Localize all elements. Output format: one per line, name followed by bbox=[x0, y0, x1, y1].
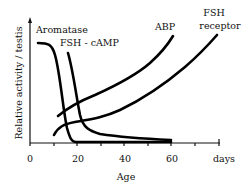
x-unit-label: days bbox=[213, 153, 235, 164]
fsh-receptor-label-line1: FSH bbox=[203, 7, 224, 18]
x-tick-0: 0 bbox=[27, 153, 33, 164]
chart: 0 20 40 60 days Age Relative activity / … bbox=[0, 0, 251, 189]
fsh-receptor-curve bbox=[54, 35, 217, 135]
y-axis-arrow-icon bbox=[28, 17, 32, 23]
x-tick-60: 60 bbox=[166, 153, 178, 164]
y-axis-title: Relative activity / testis bbox=[13, 26, 24, 139]
aromatase-label: Aromatase bbox=[35, 24, 88, 35]
abp-label: ABP bbox=[154, 21, 176, 32]
x-tick-40: 40 bbox=[119, 153, 131, 164]
fsh-camp-label: FSH - cAMP bbox=[60, 37, 120, 48]
x-tick-20: 20 bbox=[72, 153, 84, 164]
fsh-camp-curve bbox=[68, 53, 171, 140]
abp-curve bbox=[58, 36, 173, 116]
fsh-receptor-label-line2: receptor bbox=[199, 20, 241, 31]
x-axis-title: Age bbox=[116, 171, 136, 182]
